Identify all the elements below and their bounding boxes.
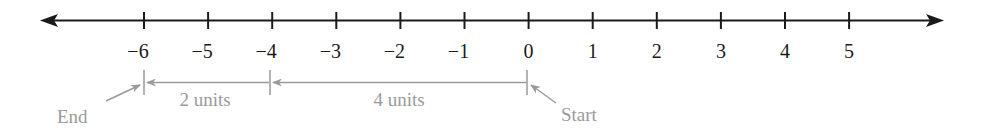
tick-label: −2 (384, 40, 405, 62)
tick-label: 3 (716, 40, 726, 62)
annotations (106, 70, 556, 103)
segment-4-units-label: 4 units (373, 89, 424, 110)
tick-label: 2 (652, 40, 662, 62)
tick-label: 5 (844, 40, 854, 62)
number-line-diagram: −6−5−4−3−2−1012345 2 units 4 units End S… (0, 0, 984, 133)
tick-label: −6 (127, 40, 148, 62)
end-pointer-arrow (106, 85, 140, 101)
segment-2-units-label: 2 units (179, 89, 230, 110)
number-line-axis (40, 14, 944, 27)
tick-label: 1 (588, 40, 598, 62)
tick-label: −5 (191, 40, 212, 62)
tick-label: −1 (448, 40, 469, 62)
start-label: Start (561, 104, 598, 125)
end-label: End (57, 106, 88, 127)
tick-label: 0 (524, 40, 534, 62)
tick-label: 4 (780, 40, 790, 62)
start-pointer-arrow (531, 85, 556, 103)
tick-label: −3 (320, 40, 341, 62)
tick-label: −4 (256, 40, 277, 62)
